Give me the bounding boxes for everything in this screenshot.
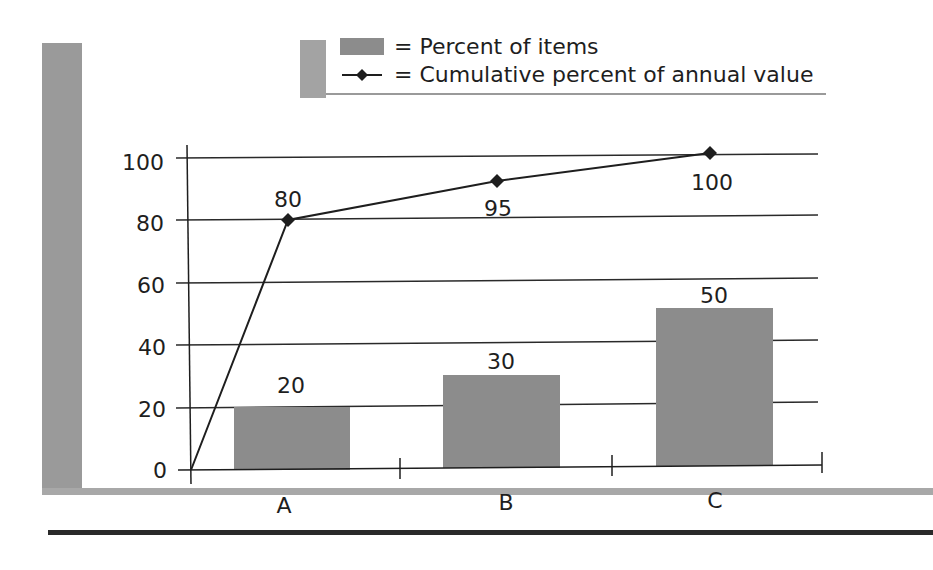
svg-text:30: 30 — [487, 349, 515, 374]
svg-text:80: 80 — [274, 187, 302, 212]
marker-c — [703, 146, 717, 160]
x-category-labels: A B C — [276, 488, 722, 518]
bar-a — [234, 407, 350, 470]
marker-b — [490, 174, 504, 188]
bar-series — [234, 308, 773, 470]
pareto-chart: 0 20 40 60 80 100 A B C 20 30 50 80 95 1… — [0, 0, 933, 570]
svg-text:20: 20 — [138, 397, 166, 422]
svg-text:60: 60 — [137, 273, 165, 298]
bar-b — [443, 375, 560, 468]
svg-text:20: 20 — [277, 373, 305, 398]
svg-text:80: 80 — [136, 211, 164, 236]
marker-a — [281, 213, 295, 227]
svg-text:100: 100 — [691, 170, 733, 195]
svg-text:0: 0 — [153, 458, 167, 483]
y-tick-labels: 0 20 40 60 80 100 — [122, 150, 167, 483]
line-value-labels: 80 95 100 — [274, 170, 733, 221]
svg-text:50: 50 — [700, 283, 728, 308]
y-axis — [187, 145, 191, 484]
svg-text:100: 100 — [122, 150, 164, 175]
svg-text:40: 40 — [138, 335, 166, 360]
svg-text:A: A — [276, 493, 291, 518]
svg-text:95: 95 — [484, 196, 512, 221]
svg-text:B: B — [498, 490, 513, 515]
bar-c — [656, 308, 773, 466]
svg-text:C: C — [707, 488, 722, 513]
